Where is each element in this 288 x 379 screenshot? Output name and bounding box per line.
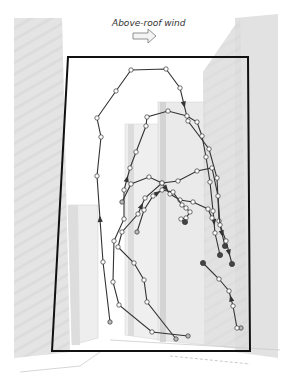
trajectory-node [206,207,210,211]
trajectory-node [160,188,164,192]
trajectory-node [143,196,147,200]
trajectory-node [218,223,222,227]
trajectory-node [144,124,148,128]
trajectory-node [134,150,138,154]
trajectory-node [188,210,192,214]
trajectory-node [235,326,239,330]
trajectory-node [101,260,105,264]
trajectory-node [120,230,124,234]
start-node [135,230,139,234]
trajectory-node [211,209,215,213]
trajectory-node [231,304,235,308]
start-node [108,320,112,324]
trajectory-node [112,239,116,243]
trajectory-node [207,147,211,151]
trajectory-node [95,174,99,178]
building-center-low-side [128,124,134,336]
trajectory-node [176,179,180,183]
trajectory-node [122,188,126,192]
trajectory-node [160,181,164,185]
start-node [186,334,190,338]
trajectory-node [185,114,189,118]
right-arrow-icon [133,29,156,43]
trajectory-node [171,190,175,194]
end-node [217,252,222,257]
trajectory-node [150,330,154,334]
trajectory-node [224,239,228,243]
trajectory-node [217,277,221,281]
trajectory-node [210,216,214,220]
trajectory-node [180,203,184,207]
trajectory-node [151,194,155,198]
trajectory-node [116,245,120,249]
trajectory-node [195,169,199,173]
building-center-tall-side [160,102,166,342]
trajectory-node [95,116,99,120]
end-node [229,261,234,266]
trajectory-node [122,217,126,221]
trajectory-node [208,180,212,184]
start-node [120,200,124,204]
trajectory-node [200,134,204,138]
trajectory-node [142,278,146,282]
end-node [182,219,187,224]
end-node [200,260,205,265]
trajectory-node [210,166,214,170]
trajectory-node [227,289,231,293]
trajectory-node [204,155,208,159]
trajectory-node [132,261,136,265]
ground-dash [170,356,250,364]
trajectory-node [164,67,168,71]
trajectory-node [142,208,146,212]
trajectory-node [117,303,121,307]
trajectory-node [178,86,182,90]
trajectory-node [191,200,195,204]
trajectory-node [166,109,170,113]
trajectory-node [111,280,115,284]
trajectory-node [147,175,151,179]
start-node [174,337,178,341]
trajectory-node [129,182,133,186]
trajectory-node [128,166,132,170]
trajectory-node [129,68,133,72]
trajectory-node [215,176,219,180]
trajectory-node [145,300,149,304]
trajectory-node [145,115,149,119]
wind-label: Above-roof wind [112,18,186,28]
trajectory-node [114,89,118,93]
trajectory-diagram [0,0,288,379]
trajectory-node [136,212,140,216]
trajectory-node [184,206,188,210]
trajectory-node [99,135,103,139]
trajectory-node [216,194,220,198]
trajectory-node [213,231,217,235]
trajectory-node [195,120,199,124]
trajectory-node [186,119,190,123]
